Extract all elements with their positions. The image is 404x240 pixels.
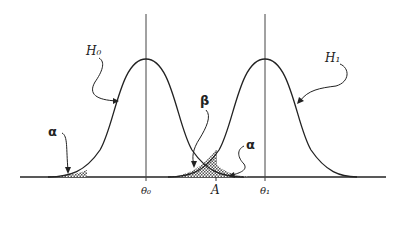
beta-arrowhead <box>191 161 197 168</box>
h0-pointer <box>93 58 117 101</box>
theta1-label: θ₁ <box>260 186 270 196</box>
beta-label: β <box>200 94 209 107</box>
h1-curve <box>168 59 357 177</box>
theta0-label: θ₀ <box>141 186 151 196</box>
alpha-left-label: α <box>48 125 57 138</box>
critical-value-label: A <box>211 184 220 196</box>
alpha-right-pointer <box>232 146 245 175</box>
alpha-left-arrowhead <box>65 167 71 174</box>
alpha-left-pointer <box>62 133 68 170</box>
h0-label: H₀ <box>86 45 101 57</box>
h1-label: H₁ <box>325 52 340 64</box>
alpha-right-label: α <box>246 138 255 151</box>
beta-pointer <box>193 110 209 165</box>
h1-pointer <box>300 64 347 101</box>
